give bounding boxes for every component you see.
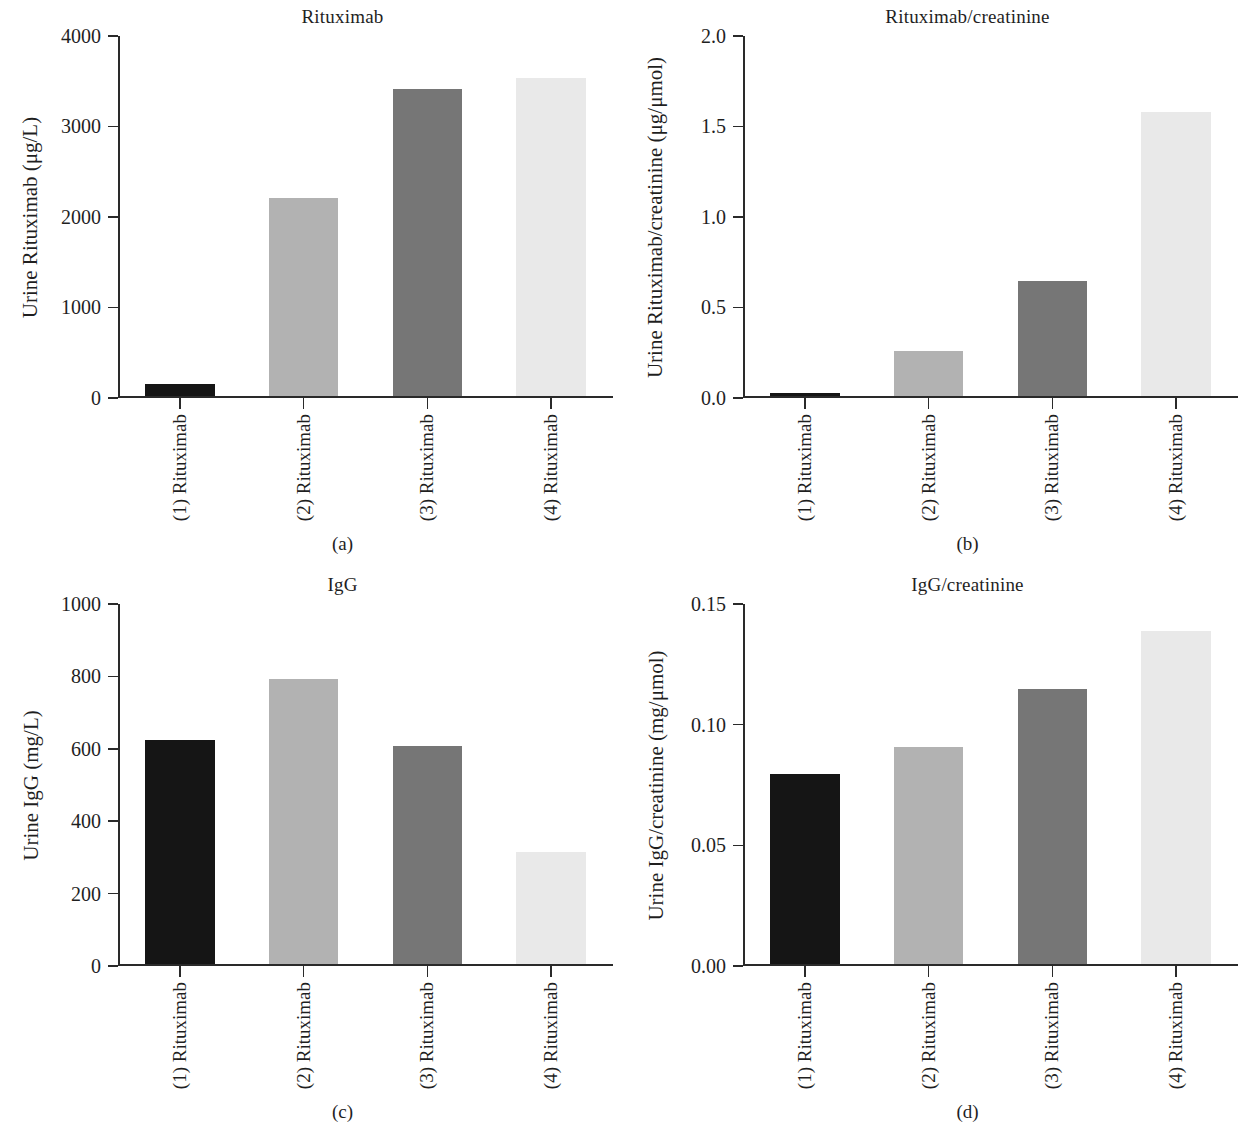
- panel-a-y-tick: 2000: [108, 216, 118, 218]
- panel-d-bar: [1141, 631, 1210, 964]
- panel-d-x-tick-label: (3) Rituximab: [1041, 982, 1063, 1089]
- panel-c-y-tick-label: 0: [91, 954, 101, 977]
- panel-c-y-tick: 400: [108, 820, 118, 822]
- panel-d-y-axis-spine: [743, 604, 745, 966]
- panel-d-x-tick-label: (2) Rituximab: [918, 982, 940, 1089]
- panel-d-x-tick: (4) Rituximab: [1175, 966, 1177, 977]
- panel-d-x-tick: (1) Rituximab: [804, 966, 806, 977]
- panel-b-x-tick-label: (3) Rituximab: [1041, 414, 1063, 521]
- panel-c-y-tick: 200: [108, 893, 118, 895]
- panel-b-y-tick: 0.0: [733, 397, 743, 399]
- panel-d-bar: [770, 774, 839, 965]
- panel-b-plot-area: 0.00.51.01.52.0(1) Rituximab(2) Rituxima…: [743, 36, 1238, 398]
- panel-d-y-axis-label: Urine IgG/creatinine (mg/μmol): [641, 604, 671, 966]
- panel-c-y-axis-label: Urine IgG (mg/L): [16, 604, 46, 966]
- panel-a-x-axis-baseline: [118, 396, 613, 398]
- panel-a-y-tick: 1000: [108, 307, 118, 309]
- panel-b-y-tick-label: 2.0: [701, 25, 726, 48]
- panel-d-y-tick: 0.10: [733, 724, 743, 726]
- panel-b-y-tick-label: 1.5: [701, 115, 726, 138]
- panel-d-y-tick-label: 0.10: [691, 713, 726, 736]
- panel-a-x-tick-label: (3) Rituximab: [416, 414, 438, 521]
- panel-d-x-tick-label: (1) Rituximab: [794, 982, 816, 1089]
- panel-b-bar: [770, 393, 839, 396]
- panel-d-x-tick: (3) Rituximab: [1052, 966, 1054, 977]
- panel-b-x-tick: (2) Rituximab: [928, 398, 930, 409]
- panel-b-y-tick: 1.0: [733, 216, 743, 218]
- panel-a-bar: [393, 89, 462, 397]
- panel-c-caption: (c): [0, 1101, 625, 1123]
- panel-d-y-tick-label: 0.05: [691, 834, 726, 857]
- panel-d-y-tick: 0.05: [733, 845, 743, 847]
- panel-c-y-tick-label: 800: [71, 665, 101, 688]
- panel-a-bar: [145, 384, 214, 397]
- panel-d-x-axis-baseline: [743, 964, 1238, 966]
- panel-a-y-axis-label: Urine Rituximab (μg/L): [16, 36, 46, 398]
- panel-a-x-tick-label: (1) Rituximab: [169, 414, 191, 521]
- panel-c-x-tick: (4) Rituximab: [550, 966, 552, 977]
- panel-c-y-tick-label: 200: [71, 882, 101, 905]
- panel-a-caption: (a): [0, 533, 625, 555]
- panel-a-y-tick-label: 3000: [61, 115, 101, 138]
- panel-a-x-tick: (2) Rituximab: [303, 398, 305, 409]
- panel-a-y-tick-label: 4000: [61, 25, 101, 48]
- panel-a-x-tick: (3) Rituximab: [427, 398, 429, 409]
- panel-b-bar: [1018, 281, 1087, 397]
- panel-b-y-tick-label: 0.0: [701, 386, 726, 409]
- panel-b: Rituximab/creatinine Urine Rituximab/cre…: [625, 0, 1250, 567]
- panel-a-y-tick-label: 0: [91, 386, 101, 409]
- panel-b-bar: [894, 351, 963, 396]
- panel-b-x-axis-baseline: [743, 396, 1238, 398]
- panel-b-y-tick: 1.5: [733, 126, 743, 128]
- figure-four-panel-bar-charts: Rituximab Urine Rituximab (μg/L) 0100020…: [0, 0, 1250, 1135]
- panel-c-x-axis-baseline: [118, 964, 613, 966]
- panel-b-x-tick-label: (2) Rituximab: [918, 414, 940, 521]
- panel-c-x-tick-label: (2) Rituximab: [293, 982, 315, 1089]
- panel-c-bar: [145, 740, 214, 964]
- panel-a-x-tick: (1) Rituximab: [179, 398, 181, 409]
- panel-c-y-tick-label: 1000: [61, 593, 101, 616]
- panel-a-y-tick-label: 1000: [61, 296, 101, 319]
- panel-a-x-tick-label: (2) Rituximab: [293, 414, 315, 521]
- panel-a-y-axis-spine: [118, 36, 120, 398]
- panel-d-y-tick-label: 0.00: [691, 954, 726, 977]
- panel-c-y-tick: 0: [108, 965, 118, 967]
- panel-b-x-tick: (3) Rituximab: [1052, 398, 1054, 409]
- panel-d-x-tick-label: (4) Rituximab: [1165, 982, 1187, 1089]
- panel-b-y-tick: 2.0: [733, 35, 743, 37]
- panel-c-y-tick: 800: [108, 676, 118, 678]
- panel-a-y-tick: 4000: [108, 35, 118, 37]
- panel-a: Rituximab Urine Rituximab (μg/L) 0100020…: [0, 0, 625, 567]
- panel-b-x-tick: (4) Rituximab: [1175, 398, 1177, 409]
- panel-b-y-axis-label: Urine Rituximab/creatinine (μg/μmol): [641, 36, 671, 398]
- panel-d-bar: [894, 747, 963, 964]
- panel-b-y-tick-label: 0.5: [701, 296, 726, 319]
- panel-a-y-tick-label: 2000: [61, 205, 101, 228]
- panel-d-y-tick: 0.00: [733, 965, 743, 967]
- panel-d-y-tick: 0.15: [733, 603, 743, 605]
- panel-c-x-tick: (3) Rituximab: [427, 966, 429, 977]
- panel-d-plot-area: 0.000.050.100.15(1) Rituximab(2) Rituxim…: [743, 604, 1238, 966]
- panel-c-y-tick: 1000: [108, 603, 118, 605]
- panel-b-caption: (b): [625, 533, 1250, 555]
- panel-c-y-axis-spine: [118, 604, 120, 966]
- panel-b-bar: [1141, 112, 1210, 396]
- panel-a-y-tick: 0: [108, 397, 118, 399]
- panel-b-y-axis-spine: [743, 36, 745, 398]
- panel-b-y-tick-label: 1.0: [701, 205, 726, 228]
- panel-c-bar: [516, 852, 585, 965]
- panel-d: IgG/creatinine Urine IgG/creatinine (mg/…: [625, 568, 1250, 1135]
- panel-c: IgG Urine IgG (mg/L) 02004006008001000(1…: [0, 568, 625, 1135]
- panel-c-x-tick: (2) Rituximab: [303, 966, 305, 977]
- panel-a-plot-area: 01000200030004000(1) Rituximab(2) Rituxi…: [118, 36, 613, 398]
- panel-c-plot-area: 02004006008001000(1) Rituximab(2) Rituxi…: [118, 604, 613, 966]
- panel-b-x-tick-label: (1) Rituximab: [794, 414, 816, 521]
- panel-a-y-tick: 3000: [108, 126, 118, 128]
- panel-c-bar: [269, 679, 338, 964]
- panel-c-x-tick-label: (3) Rituximab: [416, 982, 438, 1089]
- panel-c-bar: [393, 746, 462, 964]
- panel-d-bar: [1018, 689, 1087, 964]
- panel-c-y-tick-label: 400: [71, 810, 101, 833]
- panel-b-x-tick-label: (4) Rituximab: [1165, 414, 1187, 521]
- panel-a-x-tick-label: (4) Rituximab: [540, 414, 562, 521]
